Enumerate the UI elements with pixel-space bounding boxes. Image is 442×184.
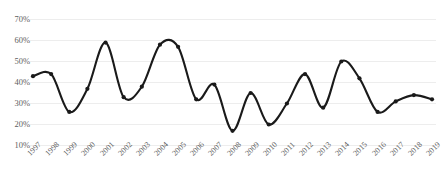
x-axis-tick-label: 2016 bbox=[371, 141, 388, 158]
x-axis-tick-label: 2000 bbox=[80, 141, 97, 158]
x-axis-tick-label: 2017 bbox=[389, 141, 406, 158]
x-axis-tick-label: 2004 bbox=[153, 141, 170, 158]
x-axis-tick-label: 2019 bbox=[425, 141, 442, 158]
x-axis-tick-label: 2009 bbox=[244, 141, 261, 158]
x-axis-tick-label: 2018 bbox=[407, 141, 424, 158]
x-axis-tick-label: 1998 bbox=[44, 141, 61, 158]
x-axis-tick-label: 2001 bbox=[99, 141, 116, 158]
x-axis-tick-label: 2011 bbox=[280, 141, 297, 158]
x-axis-tick-label: 2013 bbox=[316, 141, 333, 158]
x-axis-tick-label: 2007 bbox=[207, 141, 224, 158]
x-axis-tick-label: 2012 bbox=[298, 141, 315, 158]
x-axis-tick-label: 2014 bbox=[334, 141, 351, 158]
x-axis-tick-label: 2003 bbox=[135, 141, 152, 158]
x-axis-tick-label: 2006 bbox=[189, 141, 206, 158]
x-axis-tick-label: 2005 bbox=[171, 141, 188, 158]
x-axis-tick-label: 2002 bbox=[117, 141, 134, 158]
x-axis-tick-label: 2015 bbox=[352, 141, 369, 158]
x-axis-tick-label: 2010 bbox=[262, 141, 279, 158]
x-axis-tick-label: 1997 bbox=[26, 141, 43, 158]
x-axis-tick-label: 2008 bbox=[226, 141, 243, 158]
x-axis-tick-label: 1999 bbox=[62, 141, 79, 158]
